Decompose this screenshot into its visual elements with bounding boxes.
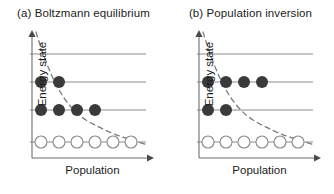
open-circle <box>292 136 304 148</box>
y-axis-arrowhead <box>195 30 202 37</box>
open-circle <box>89 136 101 148</box>
filled-circle <box>220 76 232 88</box>
open-circle <box>53 136 65 148</box>
x-axis-arrowhead <box>147 154 154 161</box>
panel-a-plot: Energy state Population <box>30 32 155 158</box>
open-circle <box>274 136 286 148</box>
open-circle <box>202 136 214 148</box>
open-circle <box>71 136 83 148</box>
open-circle <box>125 136 137 148</box>
energy-level-figure: (a) Boltzmann equilibrium <box>0 0 334 194</box>
panel-a-y-axis-label: Energy state <box>36 26 48 122</box>
filled-circle <box>89 104 101 116</box>
panel-b-x-axis-label: Population <box>197 164 322 176</box>
panel-b-y-axis-label: Energy state <box>203 26 215 122</box>
filled-circle <box>220 104 232 116</box>
panel-population-inversion: (b) Population inversion <box>167 0 334 194</box>
boltzmann-curve <box>203 32 315 145</box>
filled-circle <box>238 76 250 88</box>
open-circle <box>256 136 268 148</box>
boltzmann-curve <box>36 32 148 145</box>
panel-b-svg <box>197 32 322 158</box>
open-circle <box>35 136 47 148</box>
filled-circle <box>256 76 268 88</box>
panel-b-title: (b) Population inversion <box>167 7 334 19</box>
y-axis-arrowhead <box>28 30 35 37</box>
panel-a-x-axis-label: Population <box>30 164 155 176</box>
open-circle <box>220 136 232 148</box>
open-circle <box>238 136 250 148</box>
panel-boltzmann-equilibrium: (a) Boltzmann equilibrium <box>0 0 167 194</box>
x-axis-arrowhead <box>314 154 321 161</box>
filled-circle <box>71 104 83 116</box>
open-circle <box>107 136 119 148</box>
filled-circle <box>53 104 65 116</box>
panel-b-plot: Energy state Population <box>197 32 322 158</box>
panel-a-title: (a) Boltzmann equilibrium <box>0 7 167 19</box>
panel-a-svg <box>30 32 155 158</box>
filled-circle <box>53 76 65 88</box>
